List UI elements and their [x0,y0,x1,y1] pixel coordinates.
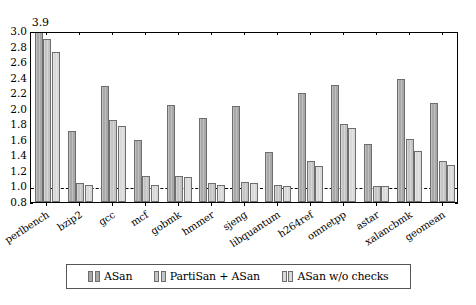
bar-omnetpp-partisan-asan [340,124,348,202]
bar-gobmk-partisan-asan [175,176,183,202]
bar-libquantum-asan [265,152,273,202]
bar-astar-asan-w-o-checks [381,186,389,202]
y-tick-mark [455,203,458,204]
legend-entry-asan: ASan [88,270,132,283]
legend-swatch-group [154,271,166,282]
bar-bzip2-partisan-asan [76,183,84,202]
x-tick-mark-top [46,32,47,35]
x-tick-mark-top [112,32,113,35]
bar-omnetpp-asan [331,85,339,202]
x-tick-mark [112,203,113,206]
legend-swatch [154,271,159,282]
bar-sjeng-partisan-asan [241,182,249,202]
legend-entry-partisan-asan: PartiSan + ASan [154,270,260,283]
bar-gcc-asan [101,86,109,202]
bar-astar-partisan-asan [373,186,381,202]
bar-xalancbmk-asan-w-o-checks [414,151,422,202]
x-tick-mark [376,203,377,206]
legend-swatch [161,271,166,282]
x-tick-mark-top [145,32,146,35]
x-tick-mark-top [310,32,311,35]
x-tick-mark [244,203,245,206]
x-tick-mark-top [409,32,410,35]
bar-bzip2-asan-w-o-checks [85,185,93,202]
bar-geomean-asan-w-o-checks [447,165,455,202]
x-tick-mark [343,203,344,206]
x-tick-mark [310,203,311,206]
bar-gobmk-asan-w-o-checks [184,177,192,202]
legend-label: PartiSan + ASan [170,270,260,283]
bar-hmmer-asan [199,118,207,202]
x-tick-mark [46,203,47,206]
bar-h264ref-asan-w-o-checks [315,166,323,202]
x-tick-mark [145,203,146,206]
y-axis-label-0.8: 0.8 [0,197,27,208]
y-axis-label-1.4: 1.4 [0,150,27,161]
bar-gcc-asan-w-o-checks [118,126,126,202]
x-tick-mark-top [343,32,344,35]
legend-swatch [95,271,100,282]
bar-h264ref-asan [298,93,306,202]
y-axis-label-2.6: 2.6 [0,57,27,68]
bar-bzip2-asan [68,131,76,202]
bar-value-annotation: 3.9 [32,16,49,29]
plot-area [30,32,458,203]
y-axis-label-3.0: 3.0 [0,26,27,37]
legend-swatch [282,271,287,282]
x-tick-mark-top [277,32,278,35]
x-tick-mark-top [376,32,377,35]
bar-mcf-asan-w-o-checks [151,185,159,202]
y-axis-label-1.0: 1.0 [0,181,27,192]
y-axis-label-2.2: 2.2 [0,88,27,99]
bar-h264ref-partisan-asan [307,161,315,202]
bar-chart: 0.81.01.21.41.61.82.02.22.42.62.83.0 3.9… [0,0,476,305]
y-axis-label-1.8: 1.8 [0,119,27,130]
bar-mcf-partisan-asan [142,176,150,202]
legend-entry-asan-w-o-checks: ASan w/o checks [282,270,389,283]
y-axis-label-2.8: 2.8 [0,42,27,53]
y-axis-label-1.2: 1.2 [0,166,27,177]
legend-swatch [288,271,293,282]
legend-label: ASan w/o checks [297,270,388,283]
bar-perlbench-asan [35,33,43,202]
bar-mcf-asan [134,140,142,202]
y-axis-label-2.4: 2.4 [0,73,27,84]
x-tick-mark [277,203,278,206]
x-tick-mark [178,203,179,206]
legend-swatch-group [88,271,100,282]
y-axis-label-1.6: 1.6 [0,135,27,146]
x-tick-mark-top [244,32,245,35]
bar-perlbench-partisan-asan [43,39,51,202]
bar-hmmer-asan-w-o-checks [217,185,225,202]
bar-hmmer-partisan-asan [208,183,216,202]
bar-gcc-partisan-asan [109,120,117,202]
x-tick-mark-top [211,32,212,35]
legend-swatch [88,271,93,282]
bar-sjeng-asan-w-o-checks [250,183,258,202]
legend-swatch-group [282,271,294,282]
x-tick-mark [409,203,410,206]
chart-legend: ASanPartiSan + ASanASan w/o checks [66,264,411,289]
x-tick-mark-top [178,32,179,35]
bar-libquantum-partisan-asan [274,185,282,202]
legend-label: ASan [104,270,132,283]
x-tick-mark [211,203,212,206]
x-tick-mark [79,203,80,206]
bar-geomean-asan [430,103,438,202]
bar-gobmk-asan [167,105,175,202]
x-tick-mark-top [442,32,443,35]
bar-libquantum-asan-w-o-checks [283,186,291,202]
bar-xalancbmk-partisan-asan [406,139,414,202]
bar-perlbench-asan-w-o-checks [52,52,60,202]
bar-xalancbmk-asan [397,79,405,202]
x-tick-mark-top [79,32,80,35]
x-tick-mark [442,203,443,206]
bar-astar-asan [364,144,372,202]
bar-sjeng-asan [232,106,240,202]
y-axis-label-2.0: 2.0 [0,104,27,115]
bar-omnetpp-asan-w-o-checks [348,128,356,202]
bar-geomean-partisan-asan [439,161,447,202]
y-tick-mark [30,203,33,204]
